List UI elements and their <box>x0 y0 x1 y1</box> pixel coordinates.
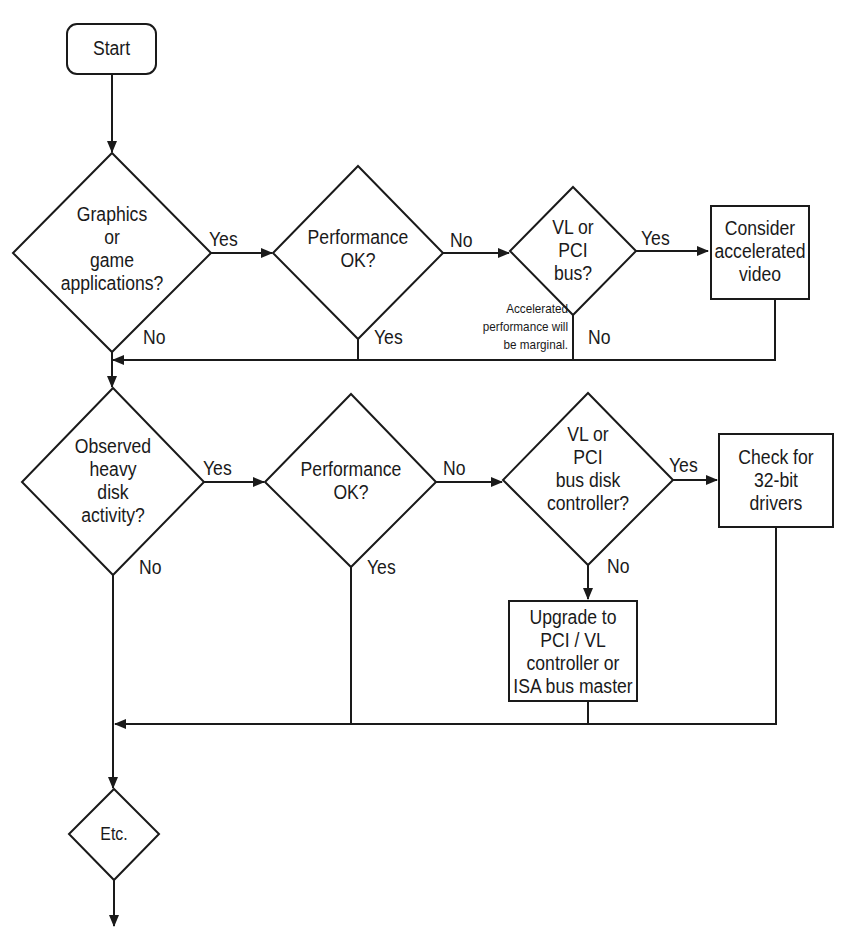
vl-pci-bus-no-label: No <box>588 326 611 348</box>
graphics-no-label: No <box>143 326 166 348</box>
vl-pci-bus-question-label: VL or PCI bus? <box>529 216 617 285</box>
performance-1-yes-label: Yes <box>374 326 403 348</box>
upgrade-label: Upgrade to PCI / VL controller or ISA bu… <box>511 606 636 698</box>
marginal-performance-note: Accelerated performance will be marginal… <box>453 300 568 354</box>
edge-check-drivers-return <box>115 527 776 724</box>
vl-pci-disk-yes-label: Yes <box>669 454 698 476</box>
vl-pci-disk-controller-question-label: VL or PCI bus disk controller? <box>526 423 649 515</box>
performance-question-1-label: Performance OK? <box>288 226 429 272</box>
disk-yes-label: Yes <box>203 457 232 479</box>
graphics-question-label: Graphics or game applications? <box>42 203 183 295</box>
etc-label: Etc. <box>83 823 145 846</box>
vl-pci-bus-yes-label: Yes <box>641 227 670 249</box>
disk-no-label: No <box>139 556 162 578</box>
performance-1-no-label: No <box>450 229 473 251</box>
edge-accelerated-video-return <box>113 299 775 360</box>
performance-2-no-label: No <box>443 457 466 479</box>
disk-activity-question-label: Observed heavy disk activity? <box>56 435 170 527</box>
check-drivers-label: Check for 32-bit drivers <box>726 446 826 515</box>
performance-2-yes-label: Yes <box>367 556 396 578</box>
performance-question-2-label: Performance OK? <box>281 458 422 504</box>
vl-pci-disk-no-label: No <box>607 555 630 577</box>
graphics-yes-label: Yes <box>209 228 238 250</box>
start-label: Start <box>72 37 150 60</box>
accelerated-video-label: Consider accelerated video <box>712 217 809 286</box>
